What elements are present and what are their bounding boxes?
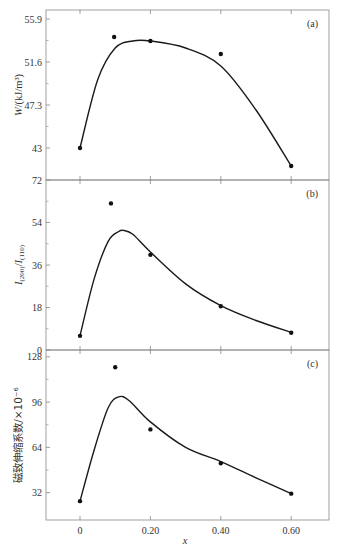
data-point	[289, 331, 293, 335]
y-tick-label: 72	[32, 175, 42, 186]
data-point	[148, 427, 152, 431]
data-point	[219, 461, 223, 465]
y-tick-label: 128	[27, 351, 42, 362]
y-tick-label: 51.6	[25, 57, 43, 68]
axes-frame	[46, 180, 329, 350]
x-tick-label: 0.60	[282, 525, 300, 536]
panel-label: (a)	[307, 18, 318, 30]
data-point	[289, 164, 293, 168]
x-tick-label: 0.20	[142, 525, 160, 536]
figure: 4347.351.655.9(a)W/(kJ/m³)018365472(b)I(…	[0, 0, 337, 549]
data-point	[78, 499, 82, 503]
y-tick-label: 43	[32, 143, 42, 154]
y-tick-label: 54	[32, 217, 42, 228]
x-axis-label: x	[182, 535, 188, 546]
y-tick-label: 64	[32, 442, 42, 453]
data-point	[219, 52, 223, 56]
y-tick-label: 36	[32, 260, 42, 271]
data-point	[148, 39, 152, 43]
panel-c: 326496128(c)磁致伸缩系数/×10⁻⁶	[12, 350, 329, 520]
panel-b: 018365472(b)I(200)/I(110)	[13, 175, 329, 356]
data-point	[219, 304, 223, 308]
fit-curve	[80, 396, 291, 501]
y-axis-label: W/(kJ/m³)	[13, 73, 25, 116]
y-axis-label: I(200)/I(110)	[13, 244, 26, 286]
data-point	[112, 35, 116, 39]
panel-label: (c)	[307, 358, 318, 370]
y-axis-label: 磁致伸缩系数/×10⁻⁶	[12, 387, 24, 482]
data-point	[148, 253, 152, 257]
y-tick-label: 18	[32, 302, 42, 313]
fit-curve	[80, 40, 291, 166]
y-tick-label: 47.3	[25, 100, 43, 111]
x-tick-label: 0.40	[212, 525, 230, 536]
panel-a: 4347.351.655.9(a)W/(kJ/m³)	[13, 10, 329, 180]
panel-label: (b)	[306, 188, 318, 200]
data-point	[289, 491, 293, 495]
data-point	[113, 365, 117, 369]
y-tick-label: 96	[32, 397, 42, 408]
y-tick-label: 32	[32, 487, 42, 498]
x-axis: 00.200.400.60	[78, 525, 300, 536]
fit-curve	[80, 230, 291, 336]
y-tick-label: 55.9	[25, 14, 43, 25]
data-point	[109, 201, 113, 205]
data-point	[78, 334, 82, 338]
x-tick-label: 0	[78, 525, 83, 536]
axes-frame	[46, 350, 329, 520]
data-point	[78, 146, 82, 150]
axes-frame	[46, 10, 329, 180]
